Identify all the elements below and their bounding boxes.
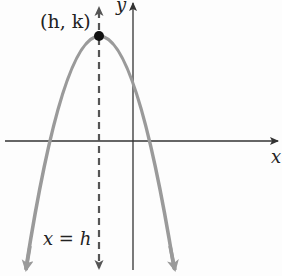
- vertex-label: (h, k): [40, 10, 91, 32]
- parabola-left-arrow: [26, 246, 30, 270]
- parabola-right-arrow: [170, 246, 175, 270]
- vertex-point: [94, 31, 104, 41]
- x-axis-label: x: [271, 146, 281, 167]
- parabola-diagram: (h, k) y x x = h: [0, 0, 282, 276]
- axis-of-symmetry-label: x = h: [43, 228, 91, 249]
- y-axis-label: y: [116, 0, 126, 15]
